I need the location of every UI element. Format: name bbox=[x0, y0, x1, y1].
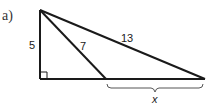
brace bbox=[107, 84, 203, 92]
label-vertical-leg: 5 bbox=[29, 39, 35, 51]
part-label: a) bbox=[2, 8, 13, 24]
right-angle-marker bbox=[40, 72, 47, 79]
triangle-diagram: a) 5 7 13 x bbox=[0, 0, 218, 111]
label-unknown-x: x bbox=[151, 93, 158, 105]
hypotenuse bbox=[40, 10, 205, 79]
inner-segment bbox=[40, 10, 106, 79]
label-inner-segment: 7 bbox=[80, 40, 86, 52]
label-hypotenuse: 13 bbox=[121, 32, 133, 44]
